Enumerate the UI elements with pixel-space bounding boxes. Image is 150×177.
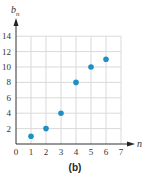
data-point xyxy=(28,134,34,140)
x-tick-label: 2 xyxy=(44,147,49,157)
y-tick-label: 14 xyxy=(2,31,12,41)
y-tick-label: 6 xyxy=(7,93,12,103)
x-tick-label: 3 xyxy=(59,147,64,157)
y-tick-label: 4 xyxy=(7,108,12,118)
y-tick-label: 10 xyxy=(2,62,12,72)
x-tick-label: 1 xyxy=(29,147,34,157)
x-tick-labels: 01234567 xyxy=(14,147,124,157)
data-point xyxy=(88,64,94,70)
x-axis-arrow-icon xyxy=(127,142,135,147)
figure-caption: (b) xyxy=(0,162,150,173)
x-tick-label: 0 xyxy=(14,147,19,157)
y-axis-label: bn xyxy=(11,4,20,18)
grid-lines xyxy=(16,36,121,144)
y-tick-labels: 2468101214 xyxy=(2,31,12,133)
x-axis-label: n xyxy=(137,138,142,149)
x-tick-label: 7 xyxy=(119,147,124,157)
data-point xyxy=(58,110,64,116)
y-tick-label: 8 xyxy=(7,77,12,87)
x-tick-label: 5 xyxy=(89,147,94,157)
x-tick-label: 6 xyxy=(104,147,109,157)
data-point xyxy=(103,57,109,63)
data-point xyxy=(43,126,49,132)
x-tick-label: 4 xyxy=(74,147,79,157)
data-point xyxy=(73,80,79,86)
y-tick-label: 2 xyxy=(7,124,12,134)
y-tick-label: 12 xyxy=(2,47,11,57)
scatter-chart: 01234567 2468101214 n bn xyxy=(0,0,150,177)
y-axis-arrow-icon xyxy=(14,18,19,26)
